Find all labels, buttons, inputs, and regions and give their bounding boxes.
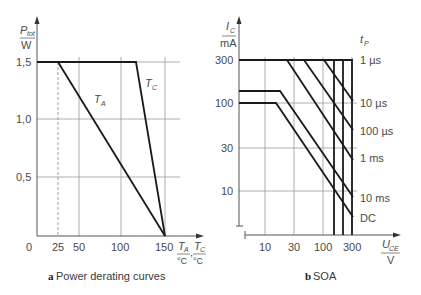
x-axis-arrow-icon xyxy=(393,233,401,238)
chart-canvas: P tot W 1,5 1,0 0,5 0 25 50 100 150 T A … xyxy=(0,0,421,295)
soa-chart: I C mA 300 100 30 10 10 30 100 300 U CE … xyxy=(215,16,401,282)
y-axis-subscript: tot xyxy=(27,30,36,37)
y-tick-30: 30 xyxy=(221,142,233,154)
y-axis-unit: W xyxy=(21,39,32,51)
x-tick-100: 100 xyxy=(314,241,332,253)
soa-curves xyxy=(239,60,353,235)
caption-letter-b: b xyxy=(305,270,311,282)
x-tick-150: 150 xyxy=(155,241,173,253)
x-axis-unit: V xyxy=(387,254,395,266)
y-tick-300: 300 xyxy=(215,54,233,66)
legend-1ms: 1 ms xyxy=(360,152,384,164)
x-tick-300: 300 xyxy=(343,241,361,253)
x-tick-30: 30 xyxy=(288,241,300,253)
x-tick-0: 0 xyxy=(26,241,32,253)
y-axis-symbol: I xyxy=(226,20,229,32)
svg-text:C: C xyxy=(152,84,158,91)
legend-1us: 1 µs xyxy=(360,54,382,66)
y-axis-arrow-icon xyxy=(35,16,40,24)
y-tick-100: 100 xyxy=(215,97,233,109)
x-tick-25: 25 xyxy=(52,241,64,253)
y-tick-1-5: 1,5 xyxy=(16,56,31,68)
legend-10ms: 10 ms xyxy=(360,192,390,204)
power-derating-chart: P tot W 1,5 1,0 0,5 0 25 50 100 150 T A … xyxy=(16,16,206,282)
x-axis-unit-tc: °C xyxy=(193,256,204,266)
svg-text:P: P xyxy=(364,40,369,47)
y-tick-0-5: 0,5 xyxy=(16,171,31,183)
curve-100us xyxy=(304,60,353,130)
left-grid xyxy=(37,57,180,236)
y-axis-subscript: C xyxy=(230,27,236,34)
x-tick-50: 50 xyxy=(73,241,85,253)
legend-100us: 100 µs xyxy=(360,125,394,137)
caption-letter-a: a xyxy=(48,270,54,282)
svg-text:CE: CE xyxy=(389,245,399,252)
svg-text:A: A xyxy=(100,100,106,107)
legend-10us: 10 µs xyxy=(360,97,388,109)
legend-dc: DC xyxy=(360,212,376,224)
curve-dc xyxy=(239,103,353,217)
caption-soa: SOA xyxy=(313,270,337,282)
x-axis-arrow-icon xyxy=(196,234,204,239)
svg-text:A: A xyxy=(183,246,189,253)
y-tick-10: 10 xyxy=(221,185,233,197)
caption-power-derating: Power derating curves xyxy=(56,270,166,282)
x-axis-unit-ta: °C xyxy=(177,256,188,266)
y-axis-arrow-icon xyxy=(237,16,242,24)
y-axis-unit: mA xyxy=(220,37,237,49)
right-grid xyxy=(239,57,357,235)
x-tick-10: 10 xyxy=(259,241,271,253)
left-axes xyxy=(35,16,205,239)
svg-text:C: C xyxy=(200,246,206,253)
x-tick-100: 100 xyxy=(111,241,129,253)
y-tick-1-0: 1,0 xyxy=(16,113,31,125)
